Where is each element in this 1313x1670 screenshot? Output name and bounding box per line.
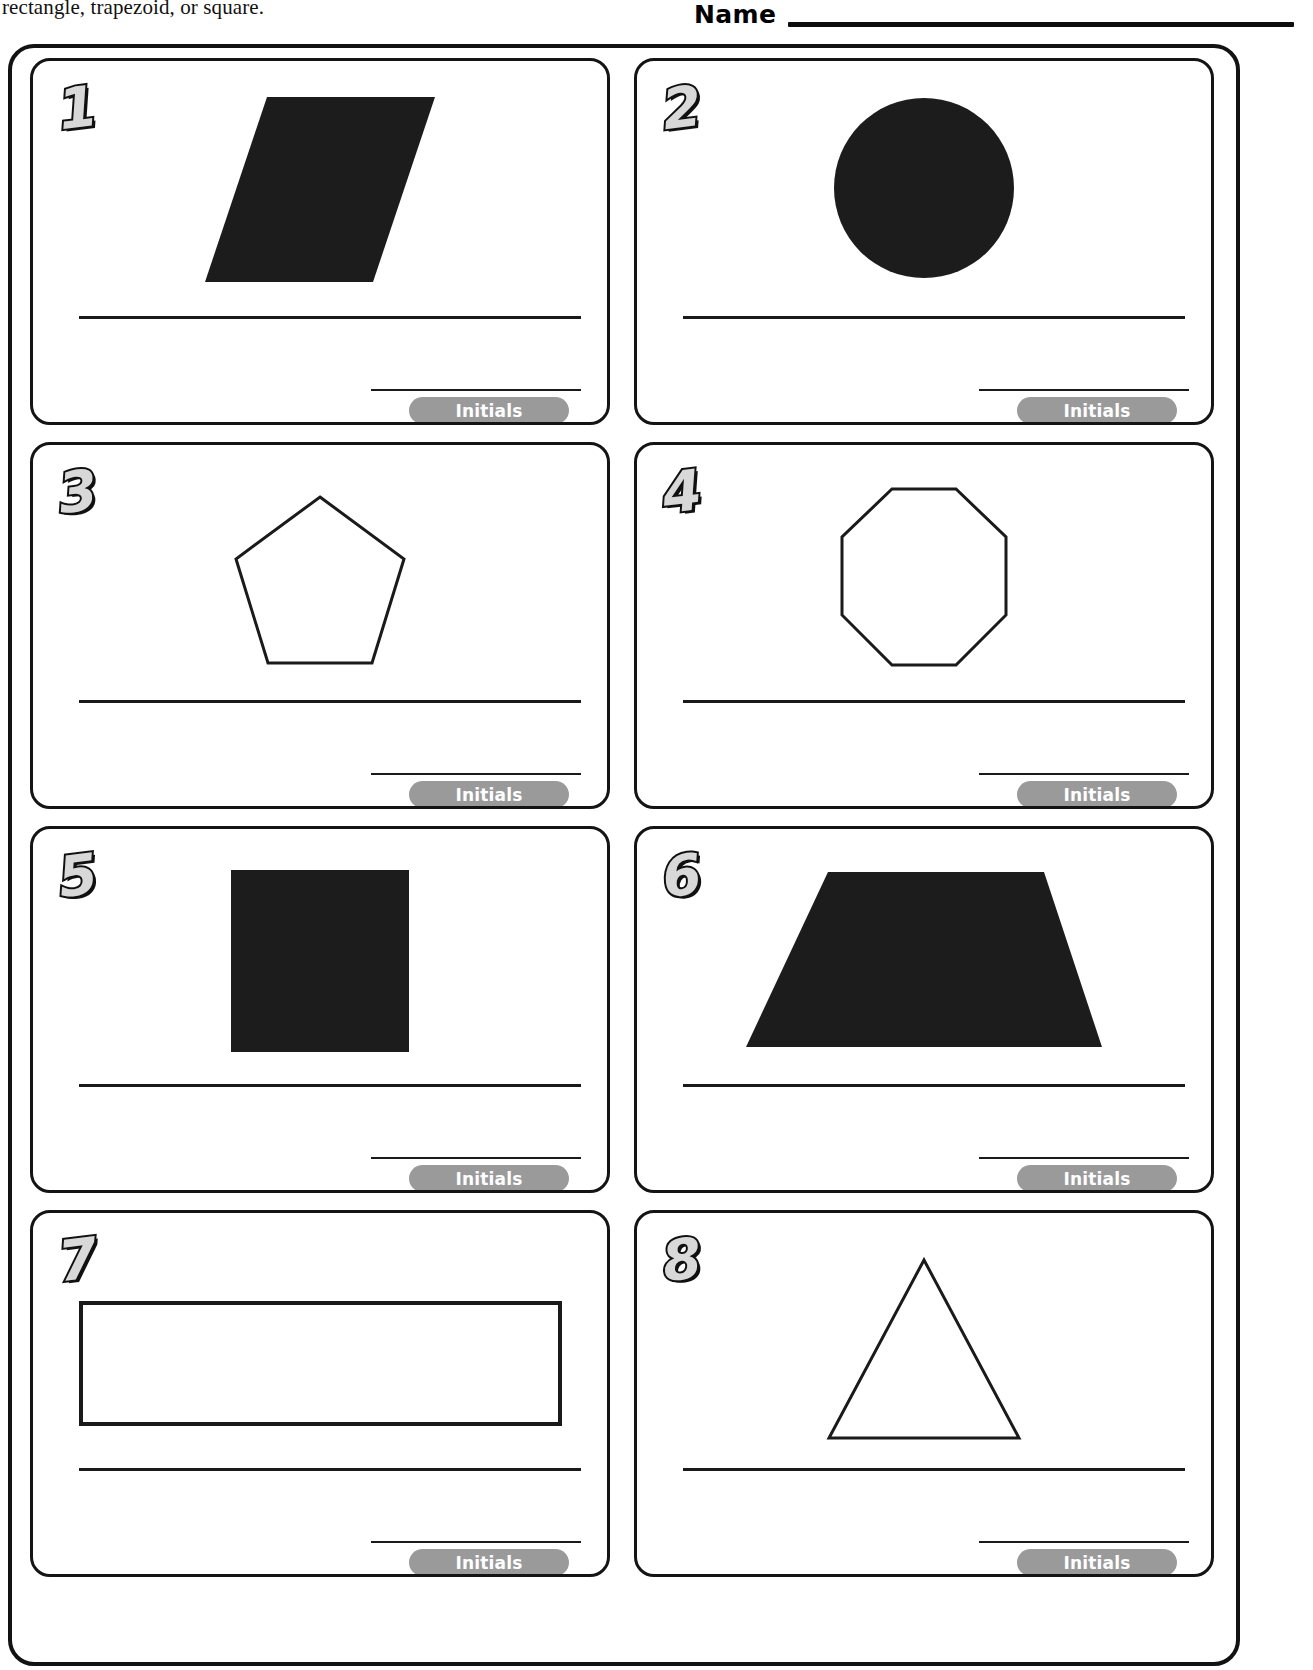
initials-badge: Initials [1017,781,1177,808]
initials-label: Initials [455,785,522,805]
shape-pentagon-icon [33,453,607,683]
initials-label: Initials [455,1169,522,1189]
initials-label: Initials [455,401,522,421]
initials-input-line[interactable] [979,389,1189,391]
worksheet-page: parallelogram, circle, pentagon, octagon… [0,0,1313,1670]
shape-trapezoid-icon [637,837,1211,1067]
answer-input-line[interactable] [79,1468,581,1471]
shape-card: 7Initials [30,1210,610,1577]
initials-input-line[interactable] [979,773,1189,775]
shape-card: 8Initials [634,1210,1214,1577]
initials-input-line[interactable] [371,389,581,391]
shape-square-icon [33,837,607,1067]
initials-label: Initials [455,1553,522,1573]
answer-input-line[interactable] [79,316,581,319]
initials-label: Initials [1063,1169,1130,1189]
answer-input-line[interactable] [683,1084,1185,1087]
shape-triangle-icon [637,1221,1211,1451]
worksheet-frame: 1Initials2Initials3Initials4Initials5Ini… [8,44,1240,1666]
shape-card-grid: 1Initials2Initials3Initials4Initials5Ini… [30,58,1222,1577]
shape-card: 5Initials [30,826,610,1193]
answer-input-line[interactable] [79,1084,581,1087]
instructions-line-2: rectangle, trapezoid, or square. [2,0,264,19]
initials-input-line[interactable] [371,773,581,775]
initials-input-line[interactable] [371,1541,581,1543]
initials-input-line[interactable] [979,1157,1189,1159]
name-field-block: Name [694,0,1294,31]
name-input-line[interactable] [788,22,1294,27]
name-label: Name [694,0,776,31]
shape-circle-icon [637,69,1211,299]
shape-card: 4Initials [634,442,1214,809]
shape-octagon-icon [637,453,1211,683]
initials-badge: Initials [1017,397,1177,424]
shape-card: 6Initials [634,826,1214,1193]
shape-card: 3Initials [30,442,610,809]
initials-badge: Initials [409,397,569,424]
answer-input-line[interactable] [683,1468,1185,1471]
initials-input-line[interactable] [979,1541,1189,1543]
shape-card: 2Initials [634,58,1214,425]
initials-label: Initials [1063,785,1130,805]
instructions-text: parallelogram, circle, pentagon, octagon… [2,0,642,20]
answer-input-line[interactable] [683,700,1185,703]
initials-label: Initials [1063,1553,1130,1573]
shape-parallelogram-icon [33,69,607,299]
shape-card: 1Initials [30,58,610,425]
initials-badge: Initials [1017,1549,1177,1576]
initials-badge: Initials [1017,1165,1177,1192]
initials-input-line[interactable] [371,1157,581,1159]
worksheet-header: parallelogram, circle, pentagon, octagon… [0,0,1313,42]
initials-badge: Initials [409,1549,569,1576]
initials-badge: Initials [409,1165,569,1192]
initials-badge: Initials [409,781,569,808]
answer-input-line[interactable] [79,700,581,703]
shape-rectangle-icon [33,1221,607,1451]
answer-input-line[interactable] [683,316,1185,319]
initials-label: Initials [1063,401,1130,421]
